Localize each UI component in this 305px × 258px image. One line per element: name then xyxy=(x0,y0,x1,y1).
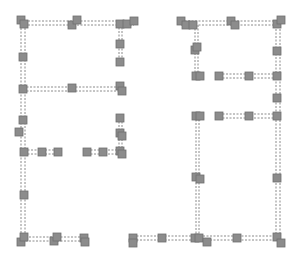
graph-node xyxy=(196,72,204,80)
graph-node xyxy=(203,238,211,246)
edge-layer xyxy=(21,21,281,241)
graph-node xyxy=(38,148,46,156)
graph-node xyxy=(158,234,166,242)
graph-node xyxy=(273,72,281,80)
graph-node xyxy=(53,233,61,241)
graph-node xyxy=(15,128,23,136)
graph-node xyxy=(20,191,28,199)
graph-node xyxy=(245,72,253,80)
graph-node xyxy=(277,16,285,24)
graph-node xyxy=(19,53,27,61)
graph-node xyxy=(19,116,27,124)
graph-node xyxy=(277,239,285,247)
graph-node xyxy=(196,112,204,120)
graph-node xyxy=(231,21,239,29)
graph-node xyxy=(189,21,197,29)
graph-node xyxy=(193,43,201,51)
graph-node xyxy=(129,239,137,247)
graph-node xyxy=(130,17,138,25)
graph-node xyxy=(116,40,124,48)
graph-node xyxy=(273,112,281,120)
graph-node xyxy=(81,238,89,246)
graph-node xyxy=(20,148,28,156)
graph-node xyxy=(273,94,281,102)
graph-node xyxy=(215,112,223,120)
graph-node xyxy=(83,148,91,156)
graph-node xyxy=(215,72,223,80)
graph-node xyxy=(73,16,81,24)
graph-node xyxy=(273,47,281,55)
graph-node xyxy=(116,114,124,122)
graph-node xyxy=(99,148,107,156)
graph-node xyxy=(19,85,27,93)
graph-node xyxy=(196,175,204,183)
graph-node xyxy=(54,148,62,156)
graph-node xyxy=(116,58,124,66)
graph-node xyxy=(118,87,126,95)
graph-node xyxy=(195,234,203,242)
graph-node xyxy=(20,233,28,241)
floorplan-diagram xyxy=(0,0,305,258)
graph-node xyxy=(68,84,76,92)
graph-node xyxy=(20,20,28,28)
graph-node xyxy=(118,150,126,158)
graph-node xyxy=(245,112,253,120)
graph-node xyxy=(118,132,126,140)
node-layer xyxy=(15,16,285,247)
graph-node xyxy=(273,174,281,182)
graph-node xyxy=(233,234,241,242)
